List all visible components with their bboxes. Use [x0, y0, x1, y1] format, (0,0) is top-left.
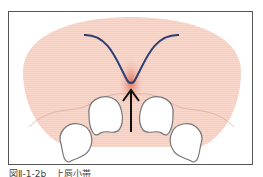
- tooth-left-lateral: [60, 124, 92, 162]
- tooth-left-central: [89, 97, 123, 135]
- palate-diagram: [9, 12, 253, 165]
- tooth-right-lateral: [170, 124, 202, 162]
- diagram-frame: [8, 11, 253, 165]
- tooth-right-central: [140, 97, 174, 135]
- figure-caption: 図Ⅱ-1-2b 上唇小帯: [9, 168, 91, 177]
